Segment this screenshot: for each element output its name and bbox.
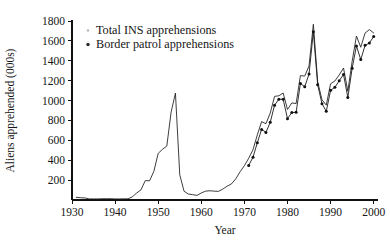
y-tick-label: 1200: [42, 75, 65, 87]
legend-label: Total INS apprehensions: [96, 23, 217, 37]
x-tick-label: 1990: [319, 206, 342, 218]
x-tick-label: 1940: [104, 206, 127, 218]
data-point-marker: [260, 128, 263, 131]
y-tick-label: 1600: [42, 35, 65, 47]
data-point-marker: [355, 44, 358, 47]
data-point-marker: [346, 96, 349, 99]
x-axis-tick-labels: 19301940195019601970198019902000: [61, 206, 386, 218]
data-point-marker: [269, 121, 272, 124]
x-axis-ticks: [72, 200, 374, 204]
data-point-marker: [252, 156, 255, 159]
data-point-marker: [338, 79, 341, 82]
x-tick-label: 1930: [61, 206, 84, 218]
data-point-marker: [264, 131, 267, 134]
x-tick-label: 1970: [233, 206, 256, 218]
x-tick-label: 1980: [276, 206, 299, 218]
data-point-marker: [364, 44, 367, 47]
data-point-marker: [256, 141, 259, 144]
y-axis-title: Aliens apprehended (000s): [4, 48, 17, 172]
data-point-marker: [290, 111, 293, 114]
legend-marker-icon: [86, 43, 89, 46]
data-point-marker: [286, 117, 289, 120]
data-point-marker: [359, 58, 362, 61]
x-axis-group: 19301940195019601970198019902000 Year: [61, 200, 386, 236]
y-axis-ticks: [68, 21, 72, 180]
data-point-marker: [303, 85, 306, 88]
y-axis-group: 20040060080010001200140016001800 Aliens …: [4, 15, 72, 200]
series-border-patrol: [247, 30, 375, 167]
data-point-marker: [372, 35, 375, 38]
data-point-marker: [329, 89, 332, 92]
chart-legend: Total INS apprehensionsBorder patrol app…: [86, 23, 234, 51]
chart-container: 20040060080010001200140016001800 Aliens …: [0, 0, 390, 244]
x-axis-title: Year: [214, 224, 235, 236]
y-tick-label: 800: [48, 114, 66, 126]
apprehensions-line-chart: 20040060080010001200140016001800 Aliens …: [0, 0, 390, 244]
y-axis-tick-labels: 20040060080010001200140016001800: [42, 15, 65, 186]
border-patrol-line: [249, 32, 374, 166]
data-point-marker: [277, 98, 280, 101]
x-tick-label: 1950: [147, 206, 170, 218]
y-tick-label: 400: [48, 154, 66, 166]
y-tick-label: 1000: [42, 95, 65, 107]
data-point-marker: [368, 41, 371, 44]
data-point-marker: [308, 73, 311, 76]
data-point-marker: [282, 98, 285, 101]
data-point-marker: [351, 67, 354, 70]
y-tick-label: 1800: [42, 15, 65, 27]
data-point-marker: [342, 73, 345, 76]
data-point-marker: [295, 111, 298, 114]
y-tick-label: 600: [48, 134, 66, 146]
data-point-marker: [333, 86, 336, 89]
data-point-marker: [325, 110, 328, 113]
y-tick-label: 1400: [42, 55, 65, 67]
x-tick-label: 2000: [362, 206, 385, 218]
y-tick-label: 200: [48, 174, 66, 186]
data-point-marker: [320, 102, 323, 105]
x-tick-label: 1960: [190, 206, 213, 218]
data-point-marker: [299, 82, 302, 85]
data-point-marker: [273, 104, 276, 107]
data-point-marker: [312, 30, 315, 33]
legend-label: Border patrol apprehensions: [96, 37, 234, 51]
data-point-marker: [316, 83, 319, 86]
data-point-marker: [247, 164, 250, 167]
legend-marker-icon: [87, 29, 90, 32]
